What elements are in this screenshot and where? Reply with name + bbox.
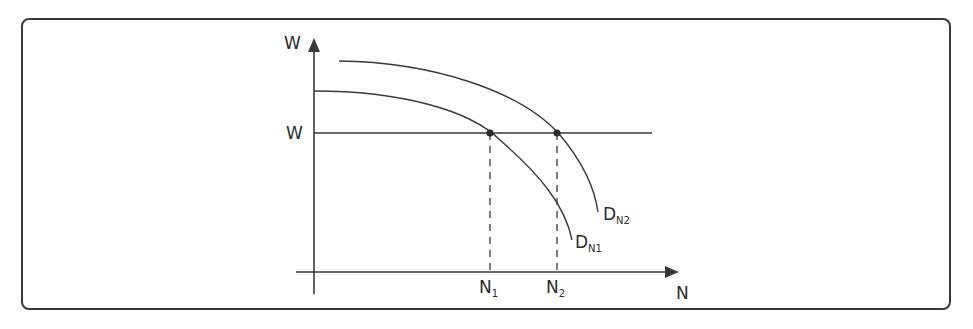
n2-label: N2	[546, 277, 565, 299]
dn1-label: DN1	[575, 232, 602, 254]
demand-curve-dn2	[339, 61, 598, 212]
dn2-label: DN2	[603, 204, 630, 226]
n1-label: N1	[479, 277, 498, 299]
x-axis-label: N	[676, 283, 689, 303]
wage-label: W	[286, 123, 303, 143]
demand-curve-dn1	[314, 91, 572, 240]
labor-demand-diagram: W W N N1 N2 DN1 DN2	[0, 0, 973, 329]
y-axis-label: W	[284, 33, 301, 53]
x-axis-arrow-icon	[665, 266, 679, 278]
intersection-point-n1	[487, 130, 494, 137]
y-axis-arrow-icon	[308, 38, 320, 52]
intersection-point-n2	[554, 130, 561, 137]
